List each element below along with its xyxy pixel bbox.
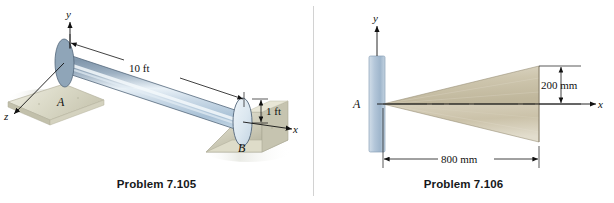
point-label-a: A bbox=[56, 95, 65, 109]
axis-x-label: x bbox=[597, 98, 603, 110]
cylinder-cap-a bbox=[55, 39, 75, 87]
point-label-a: A bbox=[352, 97, 361, 111]
figure-problem-7-105: y x z A B 10 ft 1 ft bbox=[0, 0, 313, 203]
support-plate-a bbox=[8, 84, 104, 125]
cone-upper-half bbox=[383, 66, 539, 104]
cone-lower-half bbox=[383, 104, 539, 142]
axis-x-label: x bbox=[292, 123, 298, 135]
caption-problem-7-105: Problem 7.105 bbox=[0, 178, 313, 190]
axis-y-label: y bbox=[65, 8, 71, 20]
caption-problem-7-106: Problem 7.106 bbox=[313, 178, 614, 190]
dimension-radius-label: 1 ft bbox=[266, 105, 281, 117]
dimension-length-label: 10 ft bbox=[129, 62, 149, 74]
dimension-base-radius-200mm: 200 mm bbox=[539, 66, 581, 104]
cone-diagram: y x A 200 mm 800 mm bbox=[313, 0, 614, 175]
point-label-b: B bbox=[238, 141, 246, 155]
cylinder-cap-b bbox=[233, 98, 252, 146]
axis-y-label: y bbox=[372, 12, 378, 24]
figure-problem-7-106: y x A 200 mm 800 mm Problem 7.106 bbox=[313, 0, 614, 203]
dimension-height-label: 800 mm bbox=[441, 153, 478, 165]
figure-sheet: y x z A B 10 ft 1 ft bbox=[0, 0, 614, 203]
axis-z-label: z bbox=[3, 110, 9, 122]
cylinder-diagram: y x z A B 10 ft 1 ft bbox=[0, 0, 313, 175]
dimension-base-radius-label: 200 mm bbox=[541, 79, 578, 91]
